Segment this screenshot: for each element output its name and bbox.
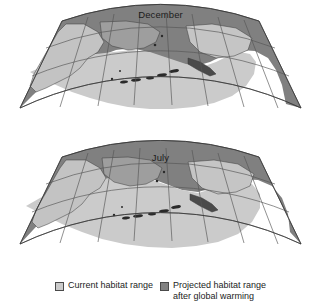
legend-item-current-habitat: Current habitat range — [55, 280, 153, 291]
legend-label-projected-line1: Projected habitat range — [173, 280, 266, 291]
map-july — [0, 140, 321, 280]
legend-item-projected-habitat: Projected habitat range after global war… — [160, 280, 266, 302]
map-december — [0, 0, 321, 148]
legend-row: Current habitat range Projected habitat … — [0, 280, 321, 302]
map-panel-december: December — [0, 0, 321, 148]
figure-container: December — [0, 0, 321, 308]
legend-swatch-projected-icon — [160, 282, 169, 291]
map-panel-july: July — [0, 140, 321, 280]
legend-label-projected-line2: after global warming — [173, 291, 266, 302]
legend-swatch-current-icon — [55, 282, 64, 291]
legend-label-current: Current habitat range — [68, 280, 153, 291]
legend: Current habitat range Projected habitat … — [0, 280, 321, 308]
